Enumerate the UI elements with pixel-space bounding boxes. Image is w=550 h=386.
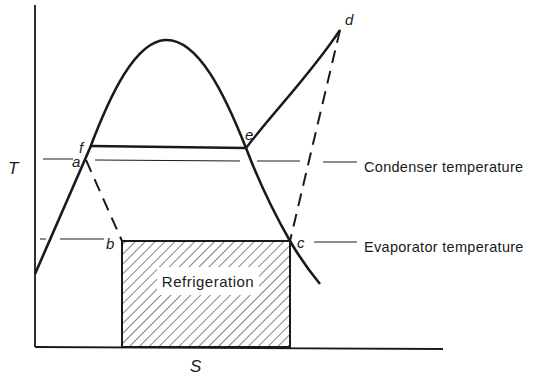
- x-axis-label: S: [190, 357, 202, 376]
- point-b-label: b: [106, 235, 114, 252]
- refrigeration-area: Refrigeration: [122, 241, 290, 347]
- ts-diagram: Refrigeration T S: [0, 0, 550, 386]
- condensing-line: [91, 146, 246, 148]
- y-axis-label: T: [8, 159, 20, 178]
- refrigeration-label: Refrigeration: [162, 273, 254, 290]
- superheat-curve: [246, 30, 340, 148]
- point-c-label: c: [297, 234, 305, 251]
- point-d-label: d: [345, 11, 354, 28]
- throttling-line: [86, 160, 122, 241]
- point-e-label: e: [245, 126, 253, 143]
- evaporator-temperature-label: Evaporator temperature: [364, 239, 524, 255]
- condenser-temperature-label: Condenser temperature: [364, 159, 523, 175]
- x-axis: [35, 347, 443, 349]
- point-a-label: a: [72, 153, 80, 170]
- compression-line: [290, 30, 340, 241]
